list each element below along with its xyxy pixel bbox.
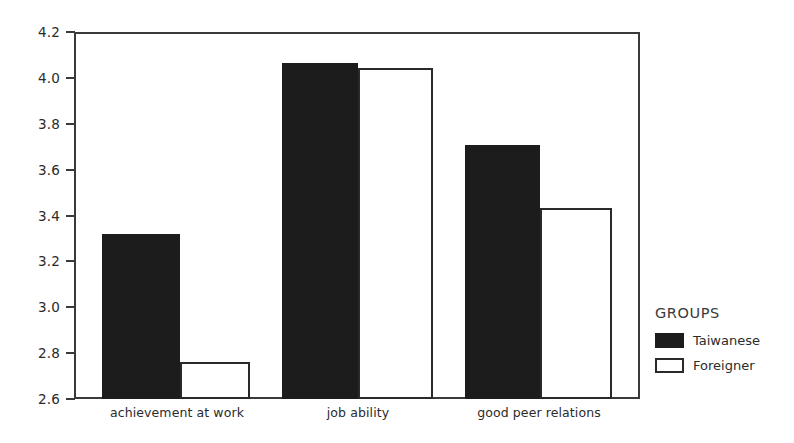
y-tick-label: 4.2 (38, 24, 60, 40)
y-axis: 2.6 2.8 3.0 3.2 3.4 3.6 3.8 4.0 4.2 (0, 0, 74, 443)
y-tick-label: 2.8 (38, 345, 60, 361)
legend-title: GROUPS (655, 305, 790, 321)
bar-foreigner-achievement-at-work[interactable] (180, 362, 250, 399)
bar-taiwanese-achievement-at-work[interactable] (102, 234, 180, 399)
y-tick-label: 3.4 (38, 208, 60, 224)
legend: GROUPS Taiwanese Foreigner (655, 305, 790, 383)
legend-item-label: Foreigner (693, 358, 754, 373)
filled-black-swatch-icon (655, 333, 684, 348)
x-category-label: job ability (327, 405, 389, 420)
y-tick-label: 3.2 (38, 253, 60, 269)
y-tick-label: 3.8 (38, 116, 60, 132)
bar-taiwanese-good-peer-relations[interactable] (465, 145, 540, 399)
y-tick-label: 3.0 (38, 299, 60, 315)
bar-chart: 2.6 2.8 3.0 3.2 3.4 3.6 3.8 4.0 4.2 a (0, 0, 794, 443)
legend-item-foreigner[interactable]: Foreigner (655, 358, 790, 373)
legend-item-taiwanese[interactable]: Taiwanese (655, 333, 790, 348)
y-tick-label: 3.6 (38, 162, 60, 178)
x-category-label: achievement at work (110, 405, 244, 420)
x-category-label: good peer relations (477, 405, 601, 420)
legend-item-label: Taiwanese (693, 333, 760, 348)
outlined-white-swatch-icon (655, 358, 684, 373)
y-tick-label: 2.6 (38, 391, 60, 407)
y-tick-label: 4.0 (38, 70, 60, 86)
bar-taiwanese-job-ability[interactable] (282, 63, 358, 399)
bar-foreigner-job-ability[interactable] (358, 68, 433, 399)
bar-foreigner-good-peer-relations[interactable] (540, 208, 612, 399)
